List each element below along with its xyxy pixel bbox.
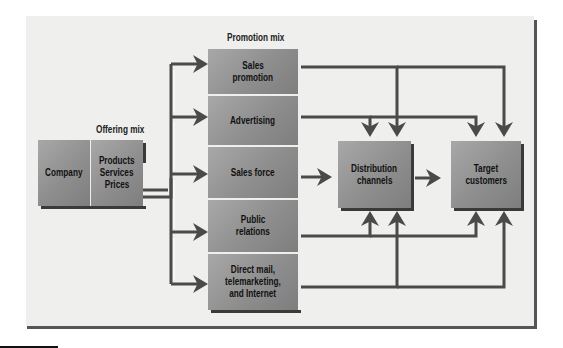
label-line: and Internet: [230, 288, 277, 300]
label-line: channels: [357, 175, 393, 187]
offering-shadow: [41, 206, 146, 209]
company-box: Company: [38, 140, 90, 206]
distribution-shadow: [341, 208, 414, 211]
promotion-direct-mail: Direct mail, telemarketing, and Internet: [208, 254, 298, 310]
target-shadow-right: [521, 144, 524, 208]
promotion-mix-title: Promotion mix: [227, 32, 284, 43]
distribution-shadow-right: [411, 144, 414, 208]
distribution-channels-box: Distribution channels: [338, 141, 411, 208]
offering-services: Services: [100, 167, 134, 179]
offering-products: Products: [99, 155, 135, 167]
label-line: telemarketing,: [225, 276, 281, 288]
target-shadow: [454, 208, 524, 211]
offering-shadow-right: [143, 143, 146, 163]
label-line: Advertising: [230, 115, 275, 127]
promotion-advertising: Advertising: [208, 96, 298, 145]
promotion-shadow: [211, 310, 301, 313]
offering-mix-title: Offering mix: [96, 124, 144, 135]
label-line: Sales force: [231, 167, 275, 179]
label-line: promotion: [233, 72, 274, 84]
promotion-sales-promotion: Sales promotion: [208, 49, 298, 94]
label-line: Public: [241, 214, 266, 226]
label-line: Sales: [242, 60, 263, 72]
company-label: Company: [45, 167, 82, 179]
label-line: Target: [474, 163, 498, 175]
label-line: customers: [465, 175, 506, 187]
promotion-public-relations: Public relations: [208, 200, 298, 252]
offering-box: Products Services Prices: [91, 140, 143, 206]
label-line: relations: [236, 226, 270, 238]
promotion-sales-force: Sales force: [208, 147, 298, 198]
offering-prices: Prices: [105, 179, 130, 191]
target-customers-box: Target customers: [451, 141, 521, 208]
label-line: Distribution: [351, 163, 397, 175]
label-line: Direct mail,: [231, 264, 275, 276]
